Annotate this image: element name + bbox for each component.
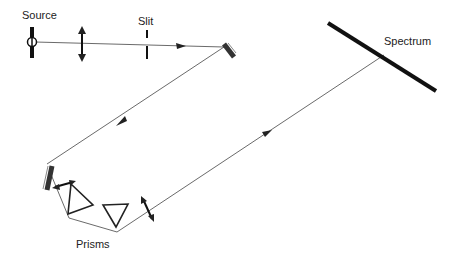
ray-arrow-3 [262,130,272,137]
source-label: Source [22,9,57,21]
prism-icon [68,184,93,214]
spectrum-label: Spectrum [384,35,431,47]
prisms-label: Prisms [76,238,110,250]
ray-mirror-to-mirror [47,47,224,164]
spectrum-screen [328,23,436,91]
spectrometer-diagram: Source Slit Prisms Spectrum [0,0,463,261]
mirror-icon [43,166,52,190]
ray-to-spectrum [117,55,384,232]
source-icon [28,27,37,58]
ray-source-to-mirror [35,42,224,47]
slit-label: Slit [138,15,153,27]
ray-mirror-to-prism [50,172,69,218]
mirror-icon [224,43,236,57]
lens-icon [78,26,86,62]
ray-arrow-1 [176,43,186,49]
prism-icon [103,204,128,227]
ray-prism1-to-prism2 [69,218,117,232]
